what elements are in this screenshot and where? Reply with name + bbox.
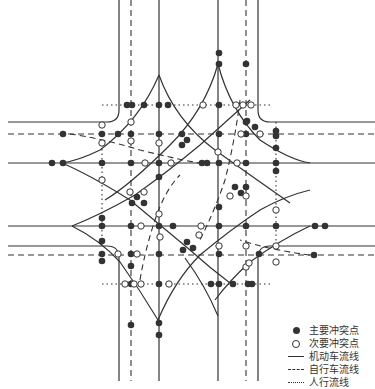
curb-top-left [8,0,119,122]
solid-line-icon [288,356,304,357]
legend: 主要冲突点 次要冲突点 机动车流线 自行车流线 人行流线 [286,324,359,389]
curb-top-right [258,0,375,122]
curb-bottom-left [8,246,119,381]
legend-item-vehicle: 机动车流线 [286,350,359,363]
hollow-circle-icon [292,340,300,348]
legend-label: 次要冲突点 [309,337,359,350]
legend-label: 机动车流线 [309,350,359,363]
legend-label: 自行车流线 [309,363,359,376]
legend-label: 主要冲突点 [309,324,359,337]
legend-item-major: 主要冲突点 [286,324,359,337]
legend-item-minor: 次要冲突点 [286,337,359,350]
legend-item-pedestrian: 人行流线 [286,376,359,389]
legend-item-bicycle: 自行车流线 [286,363,359,376]
dashed-line-icon [288,369,304,370]
dotted-line-icon [288,382,304,383]
minor-conflict-points [99,102,279,287]
legend-label: 人行流线 [309,376,349,389]
major-conflict-points [49,50,329,339]
filled-circle-icon [293,327,300,334]
